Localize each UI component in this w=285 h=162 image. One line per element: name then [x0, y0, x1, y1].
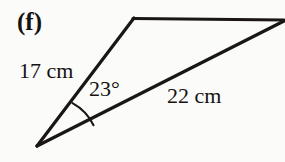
angle-measure-label: 23° — [89, 78, 120, 100]
right-side-length-label: 22 cm — [167, 85, 221, 107]
left-side-length-label: 17 cm — [19, 60, 73, 82]
part-label: (f) — [17, 9, 42, 34]
top-edge-line — [133, 19, 284, 21]
right-side-line — [37, 21, 284, 146]
geometry-figure: (f) 17 cm 23° 22 cm — [0, 0, 285, 162]
